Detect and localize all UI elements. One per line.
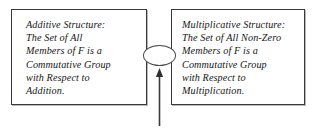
additive-line-6: Addition.	[26, 84, 142, 97]
additive-line-2: The Set of All	[26, 31, 142, 44]
field-structure-diagram: Additive Structure: The Set of All Membe…	[0, 0, 317, 129]
multiplicative-line-5: with Respect to	[182, 71, 300, 84]
multiplicative-structure-text: Multiplicative Structure: The Set of All…	[182, 18, 300, 97]
multiplicative-line-1: Multiplicative Structure:	[182, 18, 300, 31]
additive-line-3: Members of F is a	[26, 44, 142, 57]
additive-line-5: with Respect to	[26, 71, 142, 84]
arrow-head	[156, 68, 163, 77]
connector-ellipse-icon	[143, 45, 176, 66]
additive-line-1: Additive Structure:	[26, 18, 142, 31]
additive-structure-box: Additive Structure: The Set of All Membe…	[11, 9, 147, 105]
upward-arrow-icon	[152, 68, 168, 126]
multiplicative-structure-box: Multiplicative Structure: The Set of All…	[171, 9, 305, 105]
additive-line-4: Commutative Group	[26, 58, 142, 71]
multiplicative-line-4: Commutative Group	[182, 58, 300, 71]
multiplicative-line-3: Members of F is a	[182, 44, 300, 57]
additive-structure-text: Additive Structure: The Set of All Membe…	[26, 18, 142, 97]
multiplicative-line-6: Multiplication.	[182, 84, 300, 97]
multiplicative-line-2: The Set of All Non-Zero	[182, 31, 300, 44]
